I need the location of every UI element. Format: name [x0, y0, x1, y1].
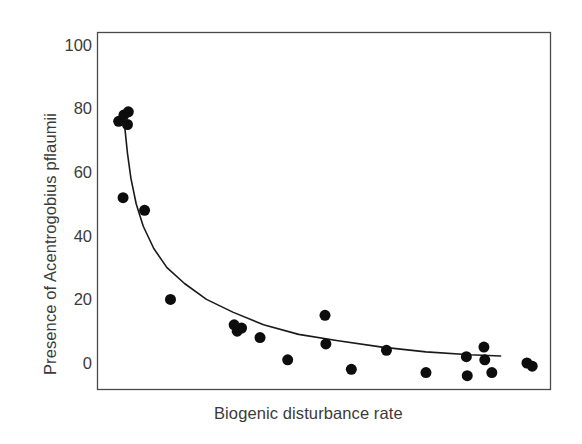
y-axis-title: Presence of Acentrogobius pflaumii — [41, 113, 60, 375]
data-point — [420, 367, 431, 378]
data-point — [123, 106, 134, 117]
data-point — [486, 367, 497, 378]
data-point — [527, 361, 538, 372]
figure-container: 100 80 60 40 20 0 Presence of Acentrogob… — [0, 0, 582, 444]
data-point — [461, 351, 472, 362]
data-point — [478, 342, 489, 353]
y-tick-label-100: 100 — [52, 36, 92, 55]
data-point — [139, 205, 150, 216]
data-point — [282, 354, 293, 365]
x-axis-title: Biogenic disturbance rate — [214, 404, 403, 423]
scatter-plot — [0, 0, 582, 444]
data-point — [381, 345, 392, 356]
plot-background — [0, 0, 582, 444]
data-point — [479, 354, 490, 365]
data-point — [122, 119, 133, 130]
data-point — [320, 310, 331, 321]
data-point — [255, 332, 266, 343]
data-point — [462, 370, 473, 381]
data-point — [118, 192, 129, 203]
data-point — [236, 323, 247, 334]
data-point — [320, 338, 331, 349]
data-point — [346, 364, 357, 375]
data-point — [165, 294, 176, 305]
